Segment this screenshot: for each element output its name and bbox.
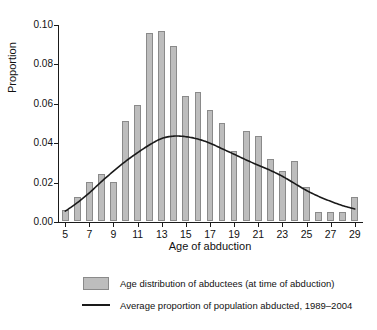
x-axis-title: Age of abduction [58, 240, 362, 252]
plot-area: 0.000.020.040.060.080.10 579111315171921… [58, 25, 362, 222]
x-tick-label: 15 [180, 229, 192, 240]
x-tick-mark [186, 223, 187, 227]
x-tick-mark [89, 223, 90, 227]
bar [339, 212, 346, 221]
x-tick-mark [138, 223, 139, 227]
y-tick-mark [54, 222, 58, 223]
bar [219, 123, 226, 221]
y-tick-mark [54, 104, 58, 105]
y-tick-label: 0.04 [34, 138, 53, 148]
x-tick-label: 5 [62, 229, 68, 240]
x-tick-mark [307, 223, 308, 227]
x-tick-label: 27 [325, 229, 337, 240]
bar [110, 182, 117, 221]
bar [315, 212, 322, 221]
y-tick-label: 0.10 [34, 20, 53, 30]
y-tick-mark [54, 64, 58, 65]
bar [182, 96, 189, 221]
legend-item-bars: Age distribution of abductees (at time o… [0, 272, 377, 294]
bar [243, 131, 250, 221]
bar [158, 31, 165, 221]
chart-figure: Proportion 0.000.020.040.060.080.10 5791… [0, 0, 377, 330]
x-tick-mark [210, 223, 211, 227]
y-tick-mark [54, 25, 58, 26]
bar [267, 159, 274, 221]
x-tick-label: 13 [156, 229, 168, 240]
x-tick-label: 29 [349, 229, 361, 240]
x-tick-label: 11 [132, 229, 143, 240]
y-axis-line [58, 25, 59, 223]
bar [122, 121, 129, 221]
legend-item-line: Average proportion of population abducte… [0, 294, 377, 316]
bar [351, 197, 358, 221]
chart-legend: Age distribution of abductees (at time o… [0, 272, 377, 316]
x-tick-mark [162, 223, 163, 227]
y-tick-label: 0.06 [34, 99, 53, 109]
bar [74, 197, 81, 221]
x-tick-mark [234, 223, 235, 227]
bar [279, 171, 286, 221]
x-tick-label: 7 [86, 229, 92, 240]
y-tick-label: 0.08 [34, 59, 53, 69]
x-tick-mark [282, 223, 283, 227]
bar [146, 33, 153, 221]
bar [231, 151, 238, 221]
legend-label-bars: Age distribution of abductees (at time o… [120, 278, 334, 289]
bar [291, 161, 298, 221]
y-tick-label: 0.00 [34, 217, 53, 227]
y-tick-mark [54, 183, 58, 184]
x-tick-label: 25 [301, 229, 313, 240]
bar [170, 46, 177, 221]
bar [255, 136, 262, 221]
bar [195, 92, 202, 221]
legend-label-line: Average proportion of population abducte… [120, 300, 352, 311]
x-tick-label: 19 [228, 229, 240, 240]
x-tick-mark [355, 223, 356, 227]
y-tick-mark [54, 143, 58, 144]
legend-line-icon [82, 304, 110, 306]
bar [86, 182, 93, 221]
x-tick-mark [331, 223, 332, 227]
legend-swatch-icon [82, 277, 110, 290]
x-tick-label: 21 [252, 229, 264, 240]
x-tick-label: 23 [277, 229, 289, 240]
bar [98, 174, 105, 221]
x-tick-label: 17 [204, 229, 216, 240]
bar [327, 212, 334, 221]
x-tick-label: 9 [111, 229, 117, 240]
y-axis-title: Proportion [6, 42, 18, 93]
bar [207, 110, 214, 222]
bar [62, 210, 69, 221]
bar [303, 187, 310, 221]
y-tick-label: 0.02 [34, 178, 53, 188]
x-tick-mark [65, 223, 66, 227]
x-tick-mark [258, 223, 259, 227]
x-tick-mark [113, 223, 114, 227]
bar [134, 105, 141, 221]
